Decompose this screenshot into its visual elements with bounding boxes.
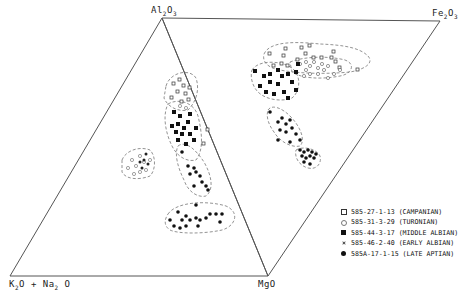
legend-item-late-aptian: 585A-17-1-15 (LATE APTIAN) (340, 249, 458, 259)
legend-label: 585A-17-1-15 (LATE APTIAN) (351, 249, 454, 259)
open-square-icon (340, 208, 349, 216)
label-text: O (59, 279, 71, 289)
subscript: 3 (454, 13, 458, 20)
star-icon (340, 239, 349, 247)
late-aptian-points-akm (168, 150, 224, 230)
middle-albian-points-akm (170, 110, 198, 146)
label-text: O + Na (19, 279, 55, 289)
label-text: MgO (258, 279, 276, 289)
subscript: 3 (173, 10, 177, 17)
vertex-label-fe2o3: Fe2O3 (432, 8, 458, 20)
middle-albian-points-afm (253, 62, 300, 100)
legend-item-early-albian: 585-46-2-40 (EARLY ALBIAN) (340, 238, 458, 248)
dashed-fields-afm (251, 43, 370, 169)
vertex-label-k2o-na2o: K2O + Na2 O (9, 279, 71, 291)
filled-circle-icon (340, 250, 349, 258)
open-circle-icon (340, 219, 349, 227)
legend-label: 585-46-2-40 (EARLY ALBIAN) (351, 238, 454, 248)
vertex-label-al2o3: Al2O3 (151, 5, 177, 17)
legend-label: 585-44-3-17 (MIDDLE ALBIAN) (351, 228, 458, 238)
legend-item-campanian: 585-27-1-13 (CAMPANIAN) (340, 207, 458, 217)
filled-square-icon (340, 229, 349, 237)
legend-item-middle-albian: 585-44-3-17 (MIDDLE ALBIAN) (340, 228, 458, 238)
late-aptian-points-afm (268, 110, 318, 166)
legend: 585-27-1-13 (CAMPANIAN) 585-31-3-29 (TUR… (340, 207, 458, 259)
vertex-label-mgo: MgO (258, 279, 276, 289)
campanian-points-afm (268, 44, 359, 71)
legend-label: 585-31-3-29 (TURONIAN) (351, 217, 438, 227)
label-text: Al (151, 5, 163, 15)
legend-label: 585-27-1-13 (CAMPANIAN) (351, 207, 442, 217)
legend-item-turonian: 585-31-3-29 (TURONIAN) (340, 217, 458, 227)
label-text: Fe (432, 8, 444, 18)
